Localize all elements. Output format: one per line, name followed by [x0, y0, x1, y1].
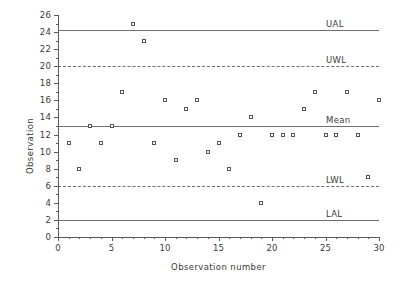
y-tick-label: 16 [40, 95, 51, 105]
y-tick [56, 24, 58, 25]
x-tick [261, 237, 262, 239]
x-tick-label: 30 [373, 243, 384, 253]
data-point [195, 98, 199, 102]
data-point [238, 133, 242, 137]
y-tick [54, 117, 58, 118]
limit-label-lal: LAL [326, 209, 342, 219]
x-tick [229, 237, 230, 239]
x-tick [154, 237, 155, 239]
y-tick [54, 203, 58, 204]
y-tick [56, 92, 58, 93]
y-tick [56, 109, 58, 110]
y-tick [56, 194, 58, 195]
x-tick [293, 237, 294, 239]
control-chart: Observation 02468101214161820222426 0510… [0, 0, 403, 291]
y-tick-label: 14 [40, 112, 51, 122]
plot-area [58, 15, 379, 237]
x-tick [79, 237, 80, 239]
x-tick [240, 237, 241, 239]
y-tick-label: 6 [45, 181, 51, 191]
y-tick [54, 49, 58, 50]
data-point [67, 141, 71, 145]
x-tick [90, 237, 91, 239]
y-tick [56, 143, 58, 144]
data-point [345, 90, 349, 94]
limit-line-lal [58, 220, 379, 221]
y-tick-label: 22 [40, 44, 51, 54]
y-tick [56, 41, 58, 42]
limit-label-uwl: UWL [326, 55, 346, 65]
x-tick [219, 237, 220, 241]
x-tick [122, 237, 123, 239]
x-axis-title: Observation number [58, 262, 379, 272]
x-tick-label: 10 [159, 243, 170, 253]
limit-line-mean [58, 126, 379, 127]
y-tick [56, 211, 58, 212]
data-point [366, 175, 370, 179]
x-tick [186, 237, 187, 239]
y-tick [54, 83, 58, 84]
y-tick-label: 20 [40, 61, 51, 71]
x-tick [251, 237, 252, 239]
y-tick-label: 2 [45, 215, 51, 225]
x-tick [272, 237, 273, 241]
data-point [302, 107, 306, 111]
x-tick [315, 237, 316, 239]
data-point [227, 167, 231, 171]
limit-label-lwl: LWL [326, 175, 344, 185]
x-tick-label: 25 [320, 243, 331, 253]
limit-line-ual [58, 30, 379, 31]
x-tick-label: 20 [266, 243, 277, 253]
x-tick [283, 237, 284, 239]
data-point [142, 39, 146, 43]
data-point [88, 124, 92, 128]
data-point [120, 90, 124, 94]
limit-label-ual: UAL [326, 19, 344, 29]
data-point [152, 141, 156, 145]
y-axis-title: Observation [25, 117, 35, 173]
y-tick [54, 32, 58, 33]
y-tick-label: 26 [40, 10, 51, 20]
data-point [324, 133, 328, 137]
data-point [206, 150, 210, 154]
x-tick [58, 237, 59, 241]
y-tick [56, 75, 58, 76]
x-tick [133, 237, 134, 239]
x-tick [69, 237, 70, 239]
data-point [184, 107, 188, 111]
x-tick [379, 237, 380, 241]
y-tick [54, 169, 58, 170]
y-tick [54, 135, 58, 136]
data-point [334, 133, 338, 137]
x-tick [112, 237, 113, 241]
y-tick-label: 10 [40, 147, 51, 157]
y-tick [54, 15, 58, 16]
x-tick [197, 237, 198, 239]
y-tick-label: 24 [40, 27, 51, 37]
x-tick [336, 237, 337, 239]
x-tick [144, 237, 145, 239]
data-point [356, 133, 360, 137]
data-point [217, 141, 221, 145]
data-point [259, 201, 263, 205]
x-tick [101, 237, 102, 239]
x-tick-label: 15 [213, 243, 224, 253]
x-tick [208, 237, 209, 239]
y-tick-label: 18 [40, 78, 51, 88]
y-tick-label: 0 [45, 232, 51, 242]
x-tick [368, 237, 369, 239]
data-point [131, 22, 135, 26]
limit-line-uwl [58, 66, 379, 67]
y-tick-label: 12 [40, 130, 51, 140]
limit-label-mean: Mean [326, 115, 350, 125]
y-tick [56, 228, 58, 229]
y-tick [54, 100, 58, 101]
y-tick [56, 160, 58, 161]
y-tick [54, 152, 58, 153]
y-tick [56, 58, 58, 59]
data-point [270, 133, 274, 137]
y-tick-label: 4 [45, 198, 51, 208]
data-point [281, 133, 285, 137]
data-point [163, 98, 167, 102]
y-tick-label: 8 [45, 164, 51, 174]
